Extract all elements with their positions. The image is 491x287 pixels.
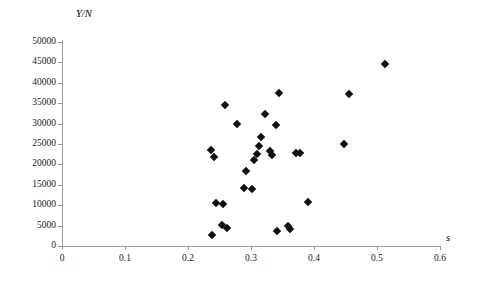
data-point <box>268 151 276 159</box>
x-axis-title: s <box>446 232 450 243</box>
data-point <box>380 59 388 67</box>
data-point <box>223 224 231 232</box>
data-point <box>233 120 241 128</box>
y-tick-label: 10000 <box>10 200 56 210</box>
data-point <box>219 199 227 207</box>
x-tick-mark <box>125 246 126 250</box>
y-tick-label: 15000 <box>10 180 56 190</box>
y-tick-label: 50000 <box>10 37 56 47</box>
y-axis-tick-labels: 0500010000150002000025000300003500040000… <box>6 0 56 287</box>
y-tick-label: 30000 <box>10 119 56 129</box>
y-tick-label: 0 <box>10 241 56 251</box>
y-tick-label: 40000 <box>10 78 56 88</box>
y-tick-label: 25000 <box>10 139 56 149</box>
x-tick-label: 0.4 <box>294 254 334 264</box>
data-point <box>286 225 294 233</box>
data-point <box>242 166 250 174</box>
data-point <box>274 89 282 97</box>
scatter-chart: Y/N s 0500010000150002000025000300003500… <box>0 0 491 287</box>
data-point <box>261 110 269 118</box>
x-tick-mark <box>440 246 441 250</box>
data-point <box>273 227 281 235</box>
y-tick-label: 5000 <box>10 221 56 231</box>
y-tick-label: 20000 <box>10 159 56 169</box>
x-tick-mark <box>62 246 63 250</box>
y-tick-label: 35000 <box>10 98 56 108</box>
x-tick-label: 0.6 <box>420 254 460 264</box>
x-tick-label: 0.1 <box>105 254 145 264</box>
data-point <box>221 101 229 109</box>
data-point <box>208 231 216 239</box>
x-tick-label: 0.5 <box>357 254 397 264</box>
data-point <box>248 185 256 193</box>
data-point <box>272 121 280 129</box>
data-point <box>344 90 352 98</box>
data-point <box>257 132 265 140</box>
x-tick-mark <box>314 246 315 250</box>
data-point <box>304 197 312 205</box>
x-tick-label: 0 <box>42 254 82 264</box>
data-point <box>210 153 218 161</box>
x-tick-mark <box>188 246 189 250</box>
x-tick-label: 0.2 <box>168 254 208 264</box>
x-tick-mark <box>251 246 252 250</box>
y-axis-title: Y/N <box>76 8 92 19</box>
x-tick-label: 0.3 <box>231 254 271 264</box>
x-tick-mark <box>377 246 378 250</box>
data-point <box>340 140 348 148</box>
plot-area <box>62 42 440 246</box>
y-tick-label: 45000 <box>10 57 56 67</box>
